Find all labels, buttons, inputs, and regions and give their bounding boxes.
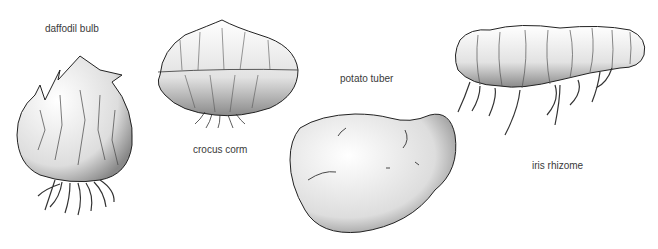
daffodil-bulb-label: daffodil bulb xyxy=(45,23,99,34)
illustrations xyxy=(0,0,658,249)
potato-tuber-illustration xyxy=(290,114,456,233)
potato-tuber-label: potato tuber xyxy=(340,73,393,84)
iris-rhizome-illustration xyxy=(455,25,644,135)
crocus-corm-label: crocus corm xyxy=(193,144,247,155)
crocus-corm-illustration xyxy=(158,20,298,128)
daffodil-bulb-illustration xyxy=(17,56,132,215)
iris-rhizome-label: iris rhizome xyxy=(532,160,583,171)
